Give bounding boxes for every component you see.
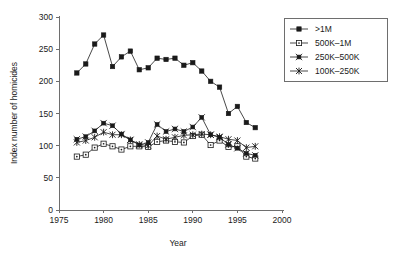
data-point xyxy=(226,111,230,115)
x-tick-label: 1985 xyxy=(139,215,158,225)
data-point xyxy=(110,64,114,68)
line-chart: 050100150200250300 197519801985199019952… xyxy=(0,0,393,253)
data-point xyxy=(128,144,133,149)
y-tick-label: 100 xyxy=(39,141,53,151)
data-point xyxy=(92,145,97,150)
data-point xyxy=(200,69,204,73)
y-tick-label: 250 xyxy=(39,44,53,54)
data-point xyxy=(155,56,159,60)
x-tick-label: 1975 xyxy=(50,215,69,225)
y-tick-label: 50 xyxy=(44,173,54,183)
data-point xyxy=(101,141,106,146)
data-point xyxy=(119,147,124,152)
x-tick-label: 1990 xyxy=(183,215,202,225)
data-point xyxy=(181,140,186,145)
data-point xyxy=(83,152,88,157)
data-point xyxy=(119,55,123,59)
data-point xyxy=(137,68,141,72)
data-point xyxy=(217,85,221,89)
data-point xyxy=(235,104,239,108)
legend-label: 500K–1M xyxy=(315,38,351,48)
data-point xyxy=(208,79,212,83)
y-tick-label: 150 xyxy=(39,109,53,119)
data-point xyxy=(128,49,132,53)
data-point xyxy=(146,66,150,70)
data-point xyxy=(92,42,96,46)
y-tick-label: 300 xyxy=(39,12,53,22)
data-point xyxy=(75,71,79,75)
data-point xyxy=(191,60,195,64)
data-point xyxy=(101,33,105,37)
data-point xyxy=(173,56,177,60)
data-point xyxy=(244,120,248,124)
x-tick-label: 2000 xyxy=(273,215,292,225)
data-point xyxy=(253,125,257,129)
legend-marker xyxy=(296,40,301,45)
y-tick-label: 0 xyxy=(48,205,53,215)
x-axis-title: Year xyxy=(169,238,186,248)
data-point xyxy=(164,57,168,61)
legend-label: 250K–500K xyxy=(315,52,360,62)
data-point xyxy=(155,139,160,144)
legend-label: 100K–250K xyxy=(315,66,360,76)
chart-figure: 050100150200250300 197519801985199019952… xyxy=(0,0,393,253)
data-point xyxy=(84,62,88,66)
data-point xyxy=(110,144,115,149)
data-point xyxy=(74,154,79,159)
x-tick-label: 1995 xyxy=(228,215,247,225)
legend-marker xyxy=(297,27,301,31)
x-tick-label: 1980 xyxy=(94,215,113,225)
y-axis-title: Index number of homicides xyxy=(9,62,19,164)
y-tick-label: 200 xyxy=(39,76,53,86)
data-point xyxy=(208,142,213,147)
data-point xyxy=(182,63,186,67)
legend-label: >1M xyxy=(315,24,332,34)
chart-legend: >1M500K–1M250K–500K100K–250K xyxy=(284,18,387,81)
